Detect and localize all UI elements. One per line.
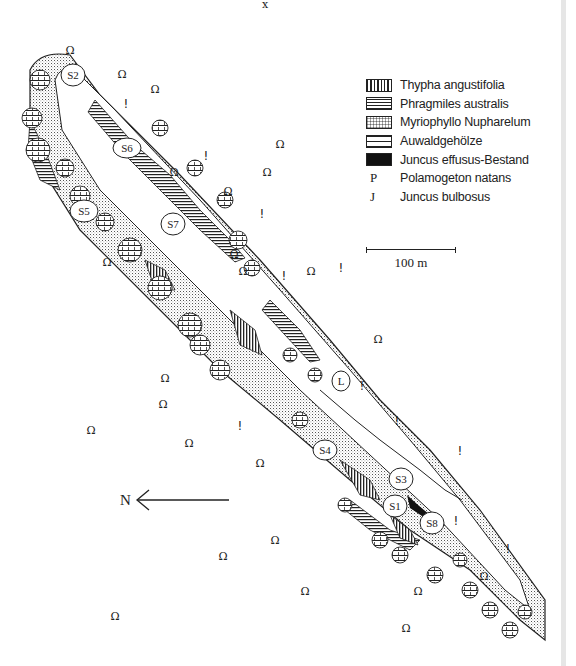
vertical-hatch-swatch-icon <box>366 79 392 92</box>
svg-text:!: ! <box>454 514 459 528</box>
legend-item-juncus-bulbosus: J Juncus bulbosus <box>366 188 566 207</box>
svg-text:S2: S2 <box>67 69 79 81</box>
north-label: N <box>120 492 131 509</box>
svg-text:Ω: Ω <box>65 44 74 57</box>
p-symbol-icon: P <box>366 170 392 186</box>
site-s8: S8 <box>420 512 444 534</box>
svg-text:Ω: Ω <box>158 398 167 411</box>
dotted-swatch-icon <box>366 116 392 129</box>
legend-item-thypha: Thypha angustifolia <box>366 76 566 95</box>
svg-text:Ω: Ω <box>300 585 309 598</box>
wide-hatch-swatch-icon <box>366 135 392 148</box>
svg-text:S8: S8 <box>426 517 438 529</box>
svg-text:Ω: Ω <box>238 265 247 278</box>
svg-text:Ω: Ω <box>223 185 232 198</box>
svg-text:Ω: Ω <box>275 138 284 151</box>
svg-text:!: ! <box>339 261 344 275</box>
svg-text:Ω: Ω <box>184 437 193 450</box>
svg-text:Ω: Ω <box>262 166 271 179</box>
svg-text:!: ! <box>282 269 287 283</box>
site-l: L <box>332 371 350 391</box>
svg-text:Ω: Ω <box>150 83 159 96</box>
svg-text:Ω: Ω <box>218 550 227 563</box>
legend-item-myriophyllo: Myriophyllo Nupharelum <box>366 113 566 132</box>
svg-text:S7: S7 <box>167 218 179 230</box>
svg-text:S6: S6 <box>121 142 133 154</box>
svg-text:!: ! <box>260 207 265 221</box>
site-s4: S4 <box>313 440 337 460</box>
svg-text:!: ! <box>506 542 511 556</box>
svg-text:!: ! <box>360 379 365 393</box>
scale-bar: 100 m <box>366 247 456 271</box>
svg-text:!: ! <box>204 149 209 163</box>
svg-text:Ω: Ω <box>117 68 126 81</box>
svg-text:x: x <box>262 0 269 11</box>
solid-black-swatch-icon <box>366 153 392 166</box>
svg-text:Ω: Ω <box>169 166 178 179</box>
site-s3: S3 <box>389 468 413 490</box>
legend-item-phragmites: Phragmiles australis <box>366 95 566 114</box>
svg-text:!: ! <box>124 97 129 111</box>
scale-bar-line <box>366 247 456 253</box>
legend-item-polamogeton: P Polamogeton natans <box>366 169 566 188</box>
svg-text:S3: S3 <box>395 473 407 485</box>
site-s5: S5 <box>70 200 98 222</box>
svg-text:!: ! <box>458 444 463 458</box>
site-s1: S1 <box>383 495 407 517</box>
svg-text:S5: S5 <box>78 205 90 217</box>
svg-text:Ω: Ω <box>270 534 279 547</box>
legend-item-auwald: Auwaldgehölze <box>366 132 566 151</box>
horizontal-hatch-swatch-icon <box>366 97 392 110</box>
svg-text:Ω: Ω <box>160 372 169 385</box>
svg-text:Ω: Ω <box>110 610 119 623</box>
svg-text:!: ! <box>238 419 243 433</box>
north-arrow: N <box>120 488 231 512</box>
svg-text:Ω: Ω <box>86 424 95 437</box>
site-s7: S7 <box>161 213 185 235</box>
svg-text:Ω: Ω <box>306 265 315 278</box>
svg-text:Ω: Ω <box>255 457 264 470</box>
svg-text:S4: S4 <box>319 444 331 456</box>
svg-text:Ω: Ω <box>401 622 410 635</box>
arrow-left-icon <box>135 488 231 512</box>
page-edge <box>561 0 566 666</box>
svg-text:S1: S1 <box>389 500 401 512</box>
svg-text:!: ! <box>395 414 400 428</box>
site-s2: S2 <box>61 64 85 86</box>
svg-text:Ω: Ω <box>413 585 422 598</box>
svg-text:Ω: Ω <box>479 570 488 583</box>
site-s6: S6 <box>113 138 141 158</box>
legend-item-juncus-effusus: Juncus effusus-Bestand <box>366 150 566 169</box>
svg-text:Ω: Ω <box>229 248 238 261</box>
svg-text:Ω: Ω <box>102 256 111 269</box>
svg-text:L: L <box>338 375 345 387</box>
scale-label: 100 m <box>366 255 456 271</box>
j-symbol-icon: J <box>366 189 392 205</box>
legend: Thypha angustifolia Phragmiles australis… <box>366 76 566 206</box>
svg-text:Ω: Ω <box>373 333 382 346</box>
